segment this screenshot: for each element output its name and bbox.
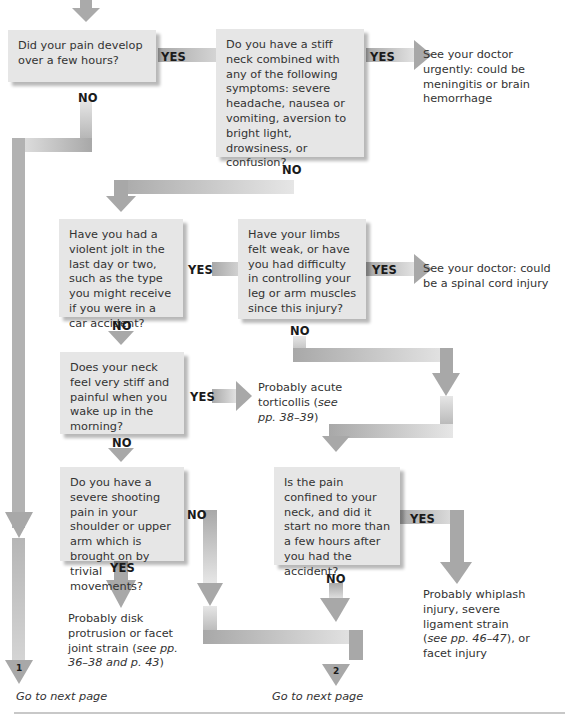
question-box-pain-develop: Did your pain develop over a few hours? [8,30,156,82]
no-label-q7: NO [326,572,346,586]
bottom-divider [14,712,565,714]
entry-arrow [72,0,100,22]
outcome-meningitis: See your doctor urgently: could be menin… [423,48,563,107]
no-label-q2: NO [282,163,302,177]
no-label-q1: NO [78,91,98,105]
arrow-q2-no [106,180,294,212]
question-text: Do you have a stiff neck combined with a… [226,38,346,169]
question-box-shooting-pain: Do you have a severe shooting pain in yo… [60,467,184,561]
outcome-text: See your doctor urgently: could be menin… [423,48,530,105]
outcome-spinal-cord: See your doctor: could be a spinal cord … [423,262,563,292]
outcome-text-tail: ) [160,656,164,669]
no-label-q5: NO [112,436,132,450]
question-text: Have your limbs felt weak, or have you h… [248,228,356,315]
go-to-next-page-1[interactable]: Go to next page [16,690,107,703]
continuation-number-2: 2 [333,666,339,676]
yes-label-q3: YES [188,263,213,277]
question-text: Is the pain confined to your neck, and d… [284,476,390,578]
yes-label-q5: YES [190,390,215,404]
no-label-q3: NO [112,319,132,333]
question-text: Does your neck feel very stiff and painf… [70,361,169,433]
yes-label-q4: YES [372,263,397,277]
question-text: Have you had a violent jolt in the last … [69,228,171,330]
outcome-torticollis: Probably acute torticollis (see pp. 38–3… [258,381,358,425]
yes-label-q2: YES [370,50,395,64]
continuation-number-1: 1 [16,663,22,673]
yes-label-q1: YES [161,50,186,64]
yes-label-q7: YES [410,512,435,526]
outcome-disk-protrusion: Probably disk protrusion or facet joint … [68,612,186,671]
question-box-stiff-neck: Do you have a stiff neck combined with a… [216,29,364,157]
question-box-stiff-morning: Does your neck feel very stiff and painf… [60,352,184,434]
yes-label-q6: YES [110,561,135,575]
outcome-text-tail: ) [314,411,318,424]
question-text: Did your pain develop over a few hours? [18,39,143,67]
outcome-text: See your doctor: could be a spinal cord … [423,262,551,290]
arrow-q5-yes [212,381,252,411]
go-to-next-page-2[interactable]: Go to next page [272,690,363,703]
question-box-pain-confined: Is the pain confined to your neck, and d… [274,467,400,565]
question-box-limbs-weak: Have your limbs felt weak, or have you h… [238,219,366,319]
arrow-q5-no [108,448,134,462]
arrow-q3-no [108,331,134,345]
arrow-q7-no [320,583,350,622]
no-label-q6: NO [187,508,207,522]
no-label-q4: NO [290,324,310,338]
page-reference: see pp. 46–47 [427,632,506,645]
outcome-whiplash: Probably whiplash injury, severe ligamen… [423,588,533,662]
question-box-violent-jolt: Have you had a violent jolt in the last … [59,219,183,317]
